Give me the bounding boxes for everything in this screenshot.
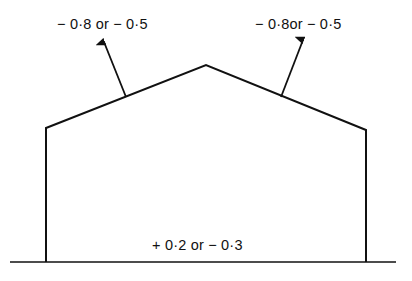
right-roof-suction-arrow [281, 40, 303, 97]
left-roof-suction-arrow [104, 42, 126, 97]
internal-pressure-coefficient-label: + 0·2 or − 0·3 [152, 237, 243, 253]
right-roof-coefficient-label: − 0·8or − 0·5 [255, 16, 341, 32]
left-roof-coefficient-label: − 0·8 or − 0·5 [57, 16, 148, 32]
building-outline [46, 65, 366, 262]
